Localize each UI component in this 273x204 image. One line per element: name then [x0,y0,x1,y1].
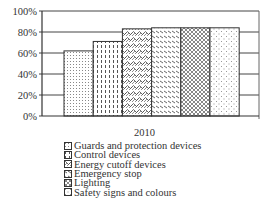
y-tick-label: 80% [18,27,38,38]
y-tick-label: 20% [18,90,38,101]
bar-guards-and-protection-devices [64,51,93,116]
y-tick-labels: 0%20%40%60%80%100% [13,6,38,122]
x-category-label: 2010 [0,127,273,138]
legend-swatch-icon [64,188,72,196]
bar-control-devices [93,41,122,116]
legend-label: Lighting [74,178,110,187]
legend-swatch-icon [64,151,72,159]
bar-energy-cutoff-devices [122,29,151,116]
legend-label: Safety signs and colours [74,188,176,197]
bar-emergency-stop [152,28,181,116]
y-tick-label: 60% [18,48,38,59]
bar-chart: 0%20%40%60%80%100% [0,0,273,130]
y-tick-label: 40% [18,69,38,80]
bar-lighting [181,28,210,116]
legend-swatch-icon [64,142,72,150]
bar-safety-signs-and-colours [210,28,239,116]
legend-item: Safety signs and colours [64,187,201,196]
legend-swatch-icon [64,179,72,187]
legend: Guards and protection devicesControl dev… [64,141,201,197]
legend-swatch-icon [64,170,72,178]
y-tick-label: 0% [23,111,37,122]
bars [64,28,239,116]
y-tick-label: 100% [13,6,38,17]
legend-swatch-icon [64,160,72,168]
